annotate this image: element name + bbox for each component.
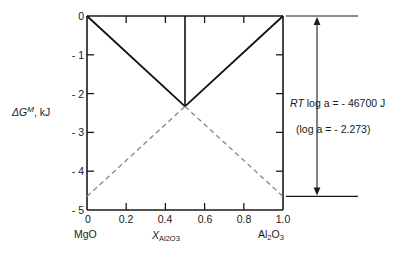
dashed-right-branch [185,106,283,196]
al2o3-al: Al [258,228,267,240]
y-tick-label-minus4: - 4 [63,166,84,177]
y-axis-ticks-left [87,55,94,171]
dashed-lambda-curve [87,106,283,196]
y-tick-label-minus3: - 3 [63,127,84,138]
x-tick-label-0-2: 0.2 [113,214,139,225]
x-tick-label-0-8: 0.8 [231,214,257,225]
annotation-rt-log-a: RT log a = - 46700 J [290,98,385,109]
y-tick-label-minus1: - 1 [63,50,84,61]
dashed-left-branch [87,106,185,196]
y-axis-ticks-right [276,55,283,171]
figure-container: 0 - 1 - 2 - 3 - 4 - 5 0 0.2 0.4 0.6 0.8 … [0,0,405,260]
x-tick-label-0: 0 [82,214,94,225]
y-tick-label-minus5: - 5 [63,205,84,216]
y-tick-label-0: 0 [68,11,84,22]
x-sub-al: Al [159,234,166,243]
x-symbol: X [152,229,159,241]
solid-left-branch [87,16,185,106]
annotation-rt-rest: log a = - 46700 J [304,97,385,109]
solid-right-branch [185,16,283,106]
annotation-log-a-value: (log a = - 2.273) [296,124,370,135]
x-sub-3: 3 [176,234,180,243]
al2o3-sub3: 3 [280,233,284,242]
x-tick-label-0-6: 0.6 [192,214,218,225]
x-axis-title: XAl2O3 [152,230,180,243]
arrow-head-up [314,17,321,25]
arrow-head-down [314,187,321,195]
x-axis-right-endmember-label: Al2O3 [258,229,284,242]
annotation-rt-italic: RT [290,97,304,109]
y-tick-label-minus2: - 2 [63,89,84,100]
x-tick-label-1-0: 1.0 [270,214,296,225]
delta-g-symbol: ΔG [12,106,27,118]
x-axis-left-endmember-label: MgO [74,229,97,240]
mgo-label: MgO [74,228,97,240]
al2o3-o: O [272,228,280,240]
superscript-m: M [27,105,34,114]
x-tick-label-0-4: 0.4 [152,214,178,225]
y-units: , kJ [34,106,50,118]
x-axis-ticks-bottom [126,203,244,210]
y-axis-title: ΔGM, kJ [12,106,50,118]
